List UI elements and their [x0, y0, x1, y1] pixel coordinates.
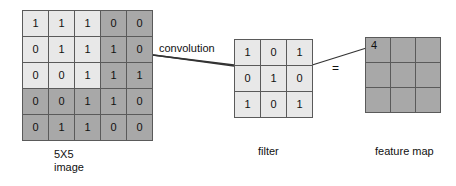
feature-map-cell-r2-c0	[366, 88, 390, 112]
image-matrix-cell-r1-c2: 1	[75, 37, 100, 62]
image-matrix-cell-r3-c0: 0	[23, 89, 48, 114]
filter-matrix-cell-r0-c2: 1	[287, 40, 312, 65]
image-matrix-cell-r2-c1: 0	[49, 63, 74, 88]
feature-map-cell-r1-c1	[391, 63, 415, 87]
image-matrix-caption: 5X5 image	[54, 148, 84, 174]
filter-matrix-cell-r2-c2: 1	[287, 92, 312, 117]
feature-map-cell-r1-c0	[366, 63, 390, 87]
image-matrix-cell-r2-c2: 1	[75, 63, 100, 88]
image-matrix-cell-r3-c3: 1	[101, 89, 126, 114]
image-matrix-cell-r3-c2: 1	[75, 89, 100, 114]
image-matrix-cell-r1-c3: 1	[101, 37, 126, 62]
image-matrix-cell-r1-c0: 0	[23, 37, 48, 62]
image-matrix-cell-r0-c2: 1	[75, 11, 100, 36]
feature-map-cell-r0-c2	[416, 38, 440, 62]
image-matrix-cell-r4-c2: 1	[75, 115, 100, 140]
image-matrix-cell-r2-c4: 1	[127, 63, 152, 88]
image-matrix-cell-r3-c4: 0	[127, 89, 152, 114]
feature-map-cell-r0-c1	[391, 38, 415, 62]
filter-matrix-cell-r1-c0: 0	[235, 66, 260, 91]
image-matrix: 1110001110001110011001100	[22, 10, 153, 141]
feature-map-cell-r2-c1	[391, 88, 415, 112]
filter-matrix-cell-r0-c0: 1	[235, 40, 260, 65]
image-matrix-cell-r0-c4: 0	[127, 11, 152, 36]
image-matrix-cell-r2-c3: 1	[101, 63, 126, 88]
filter-matrix: 101010101	[234, 39, 313, 118]
image-matrix-cell-r0-c0: 1	[23, 11, 48, 36]
equals-sign-label: =	[332, 62, 339, 75]
filter-matrix-cell-r1-c2: 0	[287, 66, 312, 91]
filter-matrix-cell-r2-c1: 0	[261, 92, 286, 117]
image-matrix-cell-r4-c3: 0	[101, 115, 126, 140]
image-matrix-cell-r1-c1: 1	[49, 37, 74, 62]
image-matrix-cell-r3-c1: 0	[49, 89, 74, 114]
image-matrix-cell-r1-c4: 0	[127, 37, 152, 62]
feature-map-caption: feature map	[375, 145, 434, 158]
filter-matrix-cell-r2-c0: 1	[235, 92, 260, 117]
image-matrix-cell-r0-c3: 0	[101, 11, 126, 36]
feature-map-matrix: 4	[365, 37, 441, 113]
image-matrix-cell-r4-c0: 0	[23, 115, 48, 140]
filter-matrix-cell-r1-c1: 1	[261, 66, 286, 91]
image-matrix-cell-r4-c1: 1	[49, 115, 74, 140]
filter-matrix-caption: filter	[258, 145, 279, 158]
feature-map-cell-r1-c2	[416, 63, 440, 87]
feature-map-cell-r2-c2	[416, 88, 440, 112]
filter-matrix-cell-r0-c1: 0	[261, 40, 286, 65]
image-matrix-cell-r2-c0: 0	[23, 63, 48, 88]
image-matrix-cell-r4-c4: 0	[127, 115, 152, 140]
convolution-label: convolution	[159, 42, 215, 55]
image-matrix-cell-r0-c1: 1	[49, 11, 74, 36]
convolution-diagram: 1110001110001110011001100 101010101 4 5X…	[0, 0, 456, 186]
feature-map-cell-r0-c0: 4	[366, 38, 390, 62]
